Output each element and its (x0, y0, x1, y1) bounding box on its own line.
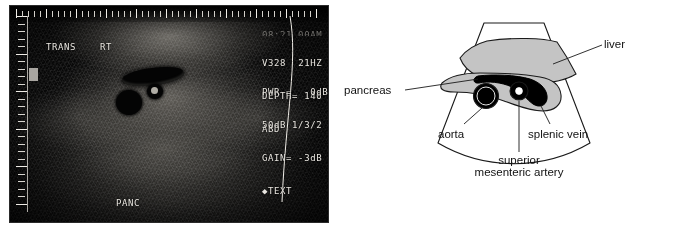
organ-annotation-label: PANC (116, 198, 140, 209)
scan-plane-label: TRANS (46, 42, 76, 53)
splenic-vein-label: splenic vein (528, 128, 588, 140)
dynamic-range-setting: 50dB 1/3/2 (262, 120, 328, 131)
sma-label-line1: superior (498, 154, 540, 166)
pancreas-label: pancreas (344, 84, 392, 96)
machine-settings-bottom-block: PWR = 0dB 50dB 1/3/2 GAIN= -3dB ◆TEXT (262, 65, 328, 219)
ultrasound-figure: TRANS RT PANC 08:21 00AM V328 21HZ DEPTH… (0, 0, 674, 246)
aorta-region (116, 90, 142, 115)
aorta-leader-line (464, 108, 482, 124)
scan-side-label: RT (100, 42, 112, 53)
power-setting: PWR = 0dB (262, 87, 328, 98)
anatomy-diagram: liver pancreas aorta splenic vein superi… (338, 0, 674, 246)
sma-lumen-highlight (151, 87, 158, 94)
sma-lumen (516, 88, 523, 95)
sma-label-line2: mesenteric artery (475, 166, 564, 178)
depth-ruler (16, 16, 30, 212)
aorta-lumen (477, 87, 495, 105)
aorta-label: aorta (438, 128, 465, 140)
ultrasound-scan-area: TRANS RT PANC 08:21 00AM V328 21HZ DEPTH… (10, 6, 328, 222)
timestamp-clipped: 08:21 00AM (262, 30, 322, 36)
text-mode-indicator: ◆TEXT (262, 186, 328, 197)
depth-ruler-spine (27, 16, 28, 212)
liver-label: liver (604, 38, 625, 50)
ultrasound-image-panel: TRANS RT PANC 08:21 00AM V328 21HZ DEPTH… (10, 6, 328, 222)
focal-zone-marker (29, 68, 38, 81)
gain-setting: GAIN= -3dB (262, 153, 328, 164)
